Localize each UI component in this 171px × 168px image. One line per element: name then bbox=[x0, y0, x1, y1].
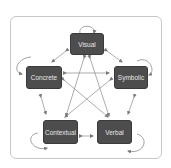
edge-symbolic-verbal bbox=[128, 97, 134, 114]
self-loop-visual bbox=[80, 26, 94, 33]
edge-visual-contextual bbox=[66, 58, 84, 116]
node-contextual: Contextual bbox=[43, 120, 78, 144]
node-visual: Visual bbox=[70, 33, 104, 55]
node-symbolic: Symbolic bbox=[114, 66, 148, 89]
node-label: Verbal bbox=[105, 129, 123, 136]
edge-concrete-verbal bbox=[64, 80, 108, 117]
node-verbal: Verbal bbox=[97, 120, 132, 144]
node-label: Contextual bbox=[45, 129, 76, 136]
node-label: Concrete bbox=[31, 74, 57, 81]
node-label: Visual bbox=[78, 41, 96, 48]
node-concrete: Concrete bbox=[26, 66, 62, 89]
edge-visual-concrete bbox=[52, 51, 66, 62]
node-label: Symbolic bbox=[118, 74, 144, 81]
edge-visual-verbal bbox=[90, 58, 109, 116]
edge-concrete-contextual bbox=[41, 97, 46, 114]
edge-visual-symbolic bbox=[107, 51, 122, 62]
